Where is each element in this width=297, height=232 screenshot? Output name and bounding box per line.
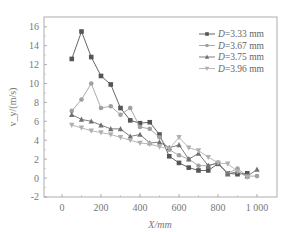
x-tick-label: 1 000 [246, 202, 269, 213]
series-2 [69, 112, 260, 179]
legend-label: D=3.67 mm [217, 41, 265, 51]
series-1 [69, 81, 259, 178]
x-tick-label: 800 [211, 202, 226, 213]
legend-label: D=3.96 mm [217, 64, 265, 74]
x-tick-label: 600 [172, 202, 187, 213]
legend-item: D=3.33 mm [199, 29, 265, 39]
x-axis-title: X/mm [147, 219, 171, 230]
y-tick-label: 12 [29, 59, 39, 70]
y-tick-label: 2 [34, 154, 39, 165]
legend-label: D=3.75 mm [217, 52, 265, 62]
x-tick-label: 200 [94, 202, 109, 213]
legend-item: D=3.96 mm [199, 64, 265, 74]
y-tick-label: 0 [34, 173, 39, 184]
y-tick-label: 4 [34, 135, 39, 146]
x-tick-label: 400 [133, 202, 148, 213]
y-tick-label: 16 [29, 21, 39, 32]
series-3 [69, 123, 250, 180]
y-tick-label: 14 [29, 40, 39, 51]
y-tick-label: -2 [31, 191, 39, 202]
legend-label: D=3.33 mm [217, 29, 265, 39]
legend-item: D=3.67 mm [199, 41, 265, 51]
legend-item: D=3.75 mm [199, 52, 265, 62]
y-axis-title: v_y/(m/s) [7, 88, 19, 127]
legend: D=3.33 mmD=3.67 mmD=3.75 mmD=3.96 mm [199, 29, 265, 74]
y-tick-label: 8 [34, 97, 39, 108]
y-tick-label: 6 [34, 116, 39, 127]
x-tick-label: 0 [60, 202, 65, 213]
line-chart: -20246810121416 02004006008001 000 D=3.3… [0, 0, 297, 232]
y-tick-label: 10 [29, 78, 39, 89]
